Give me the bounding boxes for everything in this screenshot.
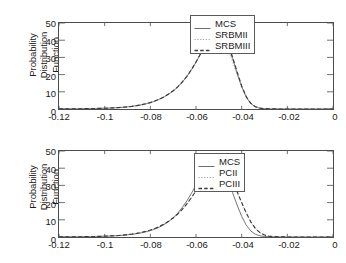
legend-label: SRBMIII <box>215 41 250 51</box>
y-tick-label: 40 <box>45 35 56 46</box>
y-tick-label: 40 <box>45 163 56 174</box>
subplot-bottom: Probability Distribution Function -0.12-… <box>0 131 346 263</box>
x-tick-label: -0.1 <box>97 111 113 122</box>
y-tick-label: 20 <box>45 70 56 81</box>
x-tick-label: -0.1 <box>97 239 113 250</box>
y-tick-label: 0 <box>51 234 56 245</box>
x-tick-label: 0 <box>332 239 337 250</box>
x-tick-label: -0.06 <box>186 239 208 250</box>
y-tick-label: 20 <box>45 198 56 209</box>
y-tick-label: 50 <box>45 146 56 157</box>
legend-swatch-mcs-icon <box>194 19 211 28</box>
subplot-top: Probability Distribution Function -0.12-… <box>0 0 346 131</box>
x-tick-label: 0 <box>332 111 337 122</box>
legend-swatch-mcs-icon <box>198 157 215 166</box>
legend-item-pciii[interactable]: PCIII <box>198 178 240 189</box>
y-tick-label: 50 <box>45 18 56 29</box>
x-tick-label: -0.08 <box>140 111 162 122</box>
y-tick-label: 0 <box>51 106 56 117</box>
x-tick-label: -0.06 <box>186 111 208 122</box>
legend-item-mcs[interactable]: MCS <box>194 18 250 29</box>
legend-label: MCS <box>215 19 236 29</box>
y-tick-label: 10 <box>45 216 56 227</box>
y-tick-label: 30 <box>45 53 56 64</box>
legend-item-srbmiii[interactable]: SRBMIII <box>194 40 250 51</box>
x-tick-label: -0.02 <box>278 111 300 122</box>
legend-swatch-pciii-icon <box>198 179 215 188</box>
legend-item-srbmii[interactable]: SRBMII <box>194 29 250 40</box>
legend-item-pcii[interactable]: PCII <box>198 167 240 178</box>
legend-label: PCIII <box>219 179 240 189</box>
legend-item-mcs[interactable]: MCS <box>198 156 240 167</box>
legend-label: MCS <box>219 157 240 167</box>
legend-swatch-srbmii-icon <box>194 30 211 39</box>
legend-label: PCII <box>219 168 237 178</box>
x-tick-label: -0.08 <box>140 239 162 250</box>
x-tick-label: -0.04 <box>232 111 254 122</box>
x-tick-label: -0.04 <box>232 239 254 250</box>
legend-label: SRBMII <box>215 30 248 40</box>
legend-swatch-pcii-icon <box>198 168 215 177</box>
figure-root: Probability Distribution Function -0.12-… <box>0 0 346 263</box>
y-tick-label: 10 <box>45 88 56 99</box>
y-tick-label: 30 <box>45 181 56 192</box>
legend-bottom[interactable]: MCSPCIIPCIII <box>194 153 245 192</box>
legend-top[interactable]: MCSSRBMIISRBMIII <box>190 15 255 54</box>
x-tick-label: -0.02 <box>278 239 300 250</box>
legend-swatch-srbmiii-icon <box>194 41 211 50</box>
